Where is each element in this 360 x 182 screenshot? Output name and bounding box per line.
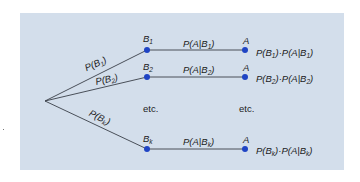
conditional-label-2: P(A|B2) xyxy=(183,65,214,77)
ellipsis-middle: etc. xyxy=(143,104,158,114)
product-label-2: P(B2)·P(A|B2) xyxy=(256,74,313,86)
node-a1 xyxy=(242,47,248,53)
conditional-label-1: P(A|B1) xyxy=(183,39,214,51)
product-label-1: P(B1)·P(A|B1) xyxy=(256,48,313,60)
node-b2 xyxy=(144,74,150,80)
node-label-b1: B1 xyxy=(143,34,153,46)
outcome-label-ak: A xyxy=(243,135,249,145)
node-ak xyxy=(242,146,248,152)
node-label-b2: B2 xyxy=(143,62,153,74)
ellipsis-right: etc. xyxy=(239,104,254,114)
node-b1 xyxy=(144,47,150,53)
conditional-label-k: P(A|Bk) xyxy=(183,137,214,149)
node-a2 xyxy=(242,74,248,80)
outcome-label-a1: A xyxy=(243,36,249,46)
node-label-bk: Bk xyxy=(143,134,153,146)
node-bk xyxy=(144,146,150,152)
outcome-label-a2: A xyxy=(243,63,249,73)
product-label-k: P(Bk)·P(A|Bk) xyxy=(256,146,312,158)
